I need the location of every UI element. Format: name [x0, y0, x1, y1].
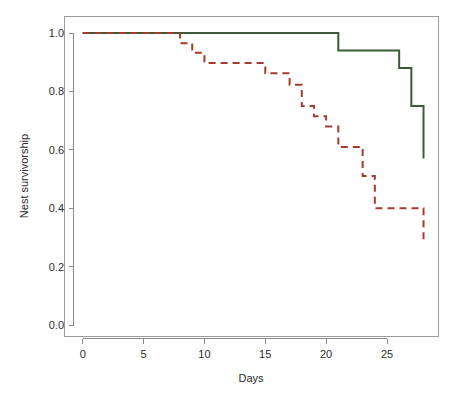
x-tick-label-2: 5: [140, 348, 146, 360]
chart-page: 1.0 0.8 0.6 0.4 0.2 0.0 0 5 10: [0, 0, 453, 402]
y-tick-label-3: 0.6: [49, 144, 64, 156]
nest-survivorship-figure: 1.0 0.8 0.6 0.4 0.2 0.0 0 5 10: [0, 0, 453, 402]
y-tick-label-4: 0.4: [49, 202, 64, 214]
y-tick-label-1: 1.0: [49, 27, 64, 39]
x-tick-label-6: 25: [381, 348, 393, 360]
y-axis-title: Nest survivorship: [18, 134, 30, 218]
x-tick-label-5: 20: [320, 348, 332, 360]
y-tick-label-2: 0.8: [49, 85, 64, 97]
x-tick-label-1: 0: [80, 348, 86, 360]
y-tick-label-5: 0.2: [49, 261, 64, 273]
figure-background: [0, 0, 453, 402]
x-tick-label-3: 10: [198, 348, 210, 360]
y-tick-label-6: 0.0: [49, 319, 64, 331]
x-tick-label-4: 15: [259, 348, 271, 360]
x-axis-title: Days: [238, 372, 264, 384]
survival-curve-chart: 1.0 0.8 0.6 0.4 0.2 0.0 0 5 10: [0, 0, 453, 402]
